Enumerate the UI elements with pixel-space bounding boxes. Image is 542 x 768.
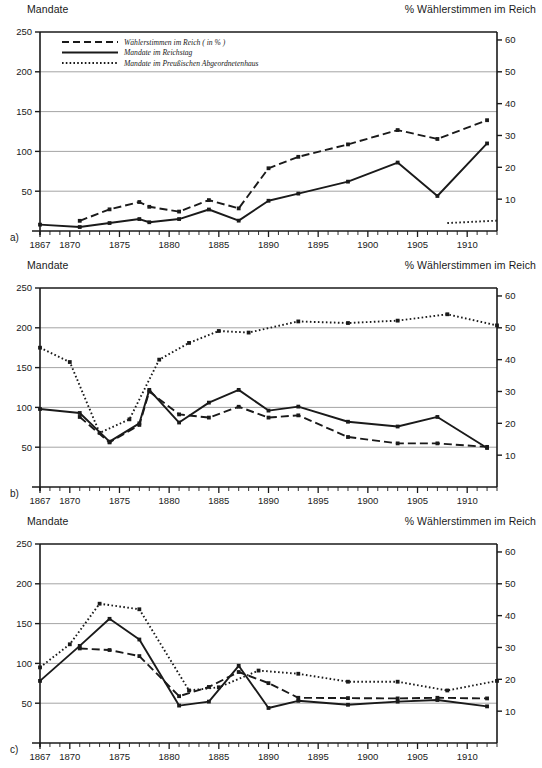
panel-c: Mandate % Wählerstimmen im Reich 2502001… bbox=[0, 512, 542, 768]
data-point bbox=[128, 417, 132, 421]
figure-root: Mandate % Wählerstimmen im Reich 2502001… bbox=[0, 0, 542, 768]
data-point bbox=[207, 198, 211, 202]
data-point bbox=[435, 137, 439, 141]
x-tick-label: 1910 bbox=[457, 239, 478, 250]
data-point bbox=[346, 680, 350, 684]
data-point bbox=[396, 161, 400, 165]
data-point bbox=[157, 358, 161, 362]
data-point bbox=[346, 180, 350, 184]
right-tick-label: 40 bbox=[505, 354, 516, 365]
panel-b: Mandate % Wählerstimmen im Reich 2502001… bbox=[0, 256, 542, 512]
gridlines bbox=[40, 584, 497, 703]
data-point bbox=[435, 415, 439, 419]
x-tick-label: 1905 bbox=[407, 239, 428, 250]
data-point bbox=[396, 425, 400, 429]
data-point bbox=[396, 441, 400, 445]
data-point bbox=[435, 441, 439, 445]
data-point bbox=[296, 155, 300, 159]
x-tick-label: 1875 bbox=[109, 495, 130, 506]
data-point bbox=[108, 648, 112, 652]
series-line bbox=[80, 120, 487, 221]
data-point bbox=[396, 680, 400, 684]
data-point bbox=[267, 409, 271, 413]
panel-a-plot: 2502001501005060504030201018671870187518… bbox=[0, 18, 542, 256]
data-point bbox=[257, 669, 261, 673]
x-tick-label: 1880 bbox=[159, 495, 180, 506]
data-point bbox=[296, 405, 300, 409]
x-tick-label: 1900 bbox=[357, 751, 378, 762]
left-tick-label: 100 bbox=[16, 402, 32, 413]
axis-title-right: % Wählerstimmen im Reich bbox=[405, 259, 536, 271]
panel-label: a) bbox=[10, 232, 19, 243]
data-point bbox=[267, 706, 271, 710]
right-tick-label: 40 bbox=[505, 610, 516, 621]
left-tick-label: 100 bbox=[16, 146, 32, 157]
data-point bbox=[137, 421, 141, 425]
left-tick-label: 50 bbox=[21, 186, 32, 197]
left-tick-label: 250 bbox=[16, 282, 32, 293]
right-tick-label: 60 bbox=[505, 546, 516, 557]
legend: Wählerstimmen im Reich ( in % )Mandate i… bbox=[62, 38, 259, 68]
series-dotted bbox=[447, 221, 497, 223]
data-point bbox=[237, 219, 241, 223]
legend-label-preussen: Mandate im Preußischen Abgeordnetenhaus bbox=[123, 59, 259, 68]
data-point bbox=[396, 700, 400, 704]
data-point bbox=[296, 699, 300, 703]
series-line bbox=[40, 604, 497, 691]
data-point bbox=[217, 685, 221, 689]
data-point bbox=[38, 223, 42, 227]
axis-title-right: % Wählerstimmen im Reich bbox=[405, 515, 536, 527]
axis-title-left: Mandate bbox=[27, 515, 69, 527]
x-axis-ticks: 1867187018751880188518901895190019051910 bbox=[29, 231, 497, 250]
series-dashed bbox=[78, 118, 489, 222]
left-tick-label: 150 bbox=[16, 106, 32, 117]
series-solid bbox=[38, 388, 489, 450]
data-point bbox=[346, 420, 350, 424]
data-point bbox=[78, 415, 82, 419]
plot-frame bbox=[32, 288, 497, 491]
data-point bbox=[445, 689, 449, 693]
data-point bbox=[296, 413, 300, 417]
left-tick-label: 100 bbox=[16, 658, 32, 669]
x-tick-label: 1890 bbox=[258, 239, 279, 250]
data-point bbox=[267, 199, 271, 203]
data-point bbox=[68, 360, 72, 364]
data-point bbox=[207, 416, 211, 420]
data-point bbox=[237, 670, 241, 674]
data-point bbox=[108, 617, 112, 621]
data-point bbox=[237, 664, 241, 668]
panel-a-chart: 2502001501005060504030201018671870187518… bbox=[0, 18, 542, 256]
data-point bbox=[485, 446, 489, 450]
data-point bbox=[98, 431, 102, 435]
data-point bbox=[147, 205, 151, 209]
data-point bbox=[78, 225, 82, 229]
data-point bbox=[237, 388, 241, 392]
axis-title-left: Mandate bbox=[27, 3, 69, 15]
data-point bbox=[207, 208, 211, 212]
left-axis-ticks: 25020015010050 bbox=[16, 26, 40, 196]
data-point bbox=[38, 346, 42, 350]
data-point bbox=[187, 689, 191, 693]
data-point bbox=[485, 704, 489, 708]
right-axis-ticks: 605040302010 bbox=[497, 546, 516, 716]
data-point bbox=[445, 312, 449, 316]
data-point bbox=[137, 638, 141, 642]
data-point bbox=[495, 679, 499, 683]
panel-label: c) bbox=[10, 744, 18, 755]
data-point bbox=[237, 206, 241, 210]
series-line bbox=[447, 221, 497, 223]
x-tick-label: 1895 bbox=[308, 239, 329, 250]
right-tick-label: 30 bbox=[505, 130, 516, 141]
left-tick-label: 200 bbox=[16, 66, 32, 77]
x-tick-label: 1900 bbox=[357, 239, 378, 250]
data-point bbox=[435, 194, 439, 198]
data-point bbox=[346, 435, 350, 439]
x-tick-label: 1870 bbox=[59, 239, 80, 250]
data-point bbox=[346, 703, 350, 707]
data-point bbox=[346, 696, 350, 700]
x-axis-ticks: 1867187018751880188518901895190019051910 bbox=[29, 743, 497, 762]
data-point bbox=[68, 642, 72, 646]
x-axis-ticks: 1867187018751880188518901895190019051910 bbox=[29, 487, 497, 506]
right-tick-label: 10 bbox=[505, 194, 516, 205]
x-tick-label: 1885 bbox=[208, 495, 229, 506]
